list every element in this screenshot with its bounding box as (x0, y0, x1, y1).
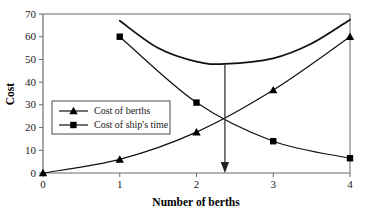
x-tick-label: 4 (347, 178, 353, 190)
y-tick-label: 20 (25, 121, 37, 133)
series-layer (39, 20, 354, 177)
optimum-arrow-head (221, 162, 229, 173)
data-point-marker (270, 138, 276, 144)
legend-square-marker (70, 122, 76, 128)
data-point-marker (346, 33, 354, 40)
series-line (120, 20, 350, 65)
legend-label: Cost of ship's time (94, 119, 169, 130)
data-point-marker (347, 155, 353, 161)
x-tick-label: 0 (40, 178, 46, 190)
y-tick-label: 40 (25, 76, 37, 88)
x-tick-label: 2 (194, 178, 200, 190)
series-3 (120, 20, 350, 65)
data-point-marker (193, 99, 199, 105)
data-point-marker (269, 86, 277, 93)
series-line (120, 37, 350, 159)
legend-label: Cost of berths (94, 105, 150, 116)
x-axis-ticks: 01234 (40, 173, 353, 190)
y-tick-label: 10 (25, 144, 37, 156)
y-axis-ticks: 010203040506070 (25, 8, 43, 179)
chart-container: 010203040506070 01234 Cost Number of ber… (0, 0, 366, 212)
x-axis-title: Number of berths (152, 196, 240, 208)
cost-vs-berths-chart: 010203040506070 01234 Cost Number of ber… (0, 0, 366, 212)
data-point-marker (192, 128, 200, 135)
x-tick-label: 1 (117, 178, 123, 190)
y-tick-label: 60 (25, 30, 37, 42)
y-tick-label: 30 (25, 98, 37, 110)
chart-legend: Cost of berthsCost of ship's time (52, 101, 170, 134)
x-tick-label: 3 (271, 178, 277, 190)
data-point-marker (117, 34, 123, 40)
y-tick-label: 70 (25, 8, 37, 20)
y-axis-title: Cost (4, 83, 16, 106)
series-2 (117, 34, 354, 162)
y-tick-label: 0 (31, 167, 37, 179)
y-tick-label: 50 (25, 53, 37, 65)
